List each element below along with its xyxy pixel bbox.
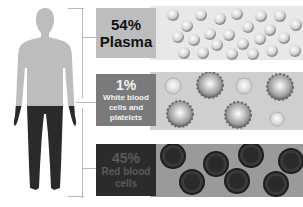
body-upper (8, 6, 82, 106)
plasma-label-box: 54% Plasma (96, 8, 156, 58)
plasma-strip (150, 6, 303, 60)
rbc-particles (150, 144, 303, 197)
wbc-label: White blood cells and platelets (99, 93, 153, 123)
plasma-particles (150, 6, 303, 60)
bracket-bottom (68, 196, 84, 197)
plasma-label: Plasma (100, 33, 153, 50)
body-lower (8, 106, 82, 196)
blood-composition-diagram: 54% Plasma (0, 0, 303, 207)
wbc-particles (150, 72, 303, 130)
rbc-label-box: 45% Red blood cells (96, 144, 156, 196)
wbc-strip (150, 72, 303, 130)
bracket-plasma (82, 8, 83, 98)
bracket-wbc-tick (76, 102, 98, 103)
rbc-label: Red blood cells (99, 166, 153, 190)
plasma-percent: 54% (111, 16, 141, 33)
bracket-top (68, 8, 84, 9)
rbc-strip (150, 144, 303, 197)
wbc-percent: 1% (116, 78, 136, 93)
bracket-rbc (82, 108, 83, 198)
wbc-label-box: 1% White blood cells and platelets (96, 74, 156, 126)
rbc-percent: 45% (112, 151, 140, 166)
human-body-silhouette (8, 6, 82, 196)
